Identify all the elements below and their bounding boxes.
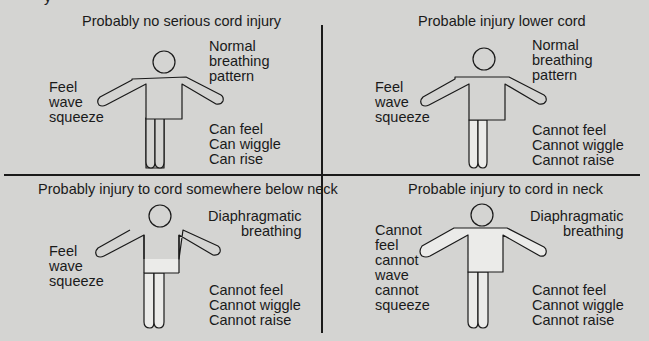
vertical-divider [321,25,323,333]
breathing-label: Normal breathing pattern [532,38,592,83]
breathing-label: Diaphragmatic breathing [530,209,624,239]
legs-function-label: Cannot feel Cannot wiggle Cannot raise [532,283,624,328]
arms-function-label: Feel wave squeeze [49,80,104,125]
arms-function-label: Cannot feel cannot wave cannot squeeze [375,223,430,313]
arms-function-label: Feel wave squeeze [49,244,104,289]
panel-title: Probable injury to cord in neck [408,181,603,197]
panel-title: Probably no serious cord injury [82,13,281,29]
legs-function-label: Cannot feel Cannot wiggle Cannot raise [209,283,301,328]
breathing-label: Normal breathing pattern [209,39,269,84]
panel-title: Probable injury lower cord [418,13,586,29]
cropped-header-text: y [44,0,52,5]
arms-function-label: Feel wave squeeze [375,80,430,125]
legs-function-label: Cannot feel Cannot wiggle Cannot raise [532,123,624,168]
legs-function-label: Can feel Can wiggle Can rise [209,122,281,167]
breathing-label: Diaphragmatic breathing [208,209,302,239]
panel-title: Probably injury to cord somewhere below … [38,181,338,197]
horizontal-divider [4,174,640,176]
